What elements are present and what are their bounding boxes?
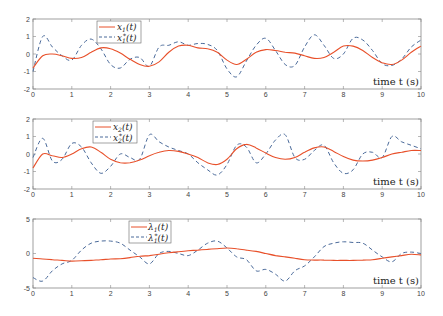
x-tick-label: 4 [186,91,190,98]
y-tick-label: -2 [24,86,30,93]
legend: λ1(t) λ1*(t) [129,221,171,244]
x-tick-label: 10 [417,191,425,198]
y-tick-label: 1 [26,133,30,140]
y-tick-label: 1 [26,33,30,40]
y-tick-label: 5 [26,216,30,223]
axes-box [33,219,421,288]
x-tick-label: 0 [31,91,35,98]
x-tick-label: 6 [264,191,268,198]
x-tick-label: 10 [417,290,425,297]
legend-label-actual: x2(t) [113,122,133,133]
subplot-x2: -2-1012 012345678910 x2(t) x2*(t) time t… [24,116,425,199]
x-tick-label: 9 [380,91,384,98]
x-tick-label: 7 [303,91,307,98]
x-tick-label: 1 [70,191,74,198]
x-tick-label: 10 [417,91,425,98]
x-tick-label: 5 [225,290,229,297]
y-tick-label: -5 [24,285,30,292]
x-tick-label: 1 [70,290,74,297]
x-tick-label: 4 [186,191,190,198]
x-tick-label: 9 [380,290,384,297]
x-tick-label: 3 [147,290,151,297]
x-tick-label: 8 [341,91,345,98]
x-tick-label: 8 [341,191,345,198]
x-axis-label: time t (s) [373,176,419,187]
axes-box [33,119,421,189]
x-tick-label: 5 [225,91,229,98]
legend-label-reference: x2*(t) [113,132,133,144]
y-tick-label: -1 [24,168,30,175]
legend: x1(t) x1*(t) [97,21,141,44]
x-tick-label: 0 [31,290,35,297]
x-tick-label: 2 [109,290,113,297]
y-tick-label: -1 [24,68,30,75]
x-tick-label: 6 [264,290,268,297]
x-tick-label: 0 [31,191,35,198]
x-tick-label: 2 [109,191,113,198]
y-tick-label: 2 [26,16,30,23]
legend-label-actual: λ1(t) [147,222,169,233]
y-tick-label: 2 [26,116,30,123]
subplot-x1: -2-1012 012345678910 x1(t) x1*(t) time t… [24,16,425,99]
axes-box [33,19,421,89]
legend-label-reference: x1*(t) [117,32,137,44]
legend-label-actual: x1(t) [117,22,137,33]
x-tick-label: 7 [303,191,307,198]
x-tick-label: 8 [341,290,345,297]
x-axis-label: time t (s) [373,76,419,87]
figure: -2-1012 012345678910 x1(t) x1*(t) time t… [0,0,443,316]
y-tick-label: -2 [24,186,30,193]
subplot-lambda1: -505 012345678910 λ1(t) λ1*(t) time t (s… [24,216,425,298]
x-tick-label: 9 [380,191,384,198]
x-tick-label: 1 [70,91,74,98]
x-tick-label: 3 [147,91,151,98]
y-tick-label: 0 [26,250,30,257]
y-tick-label: 0 [26,51,30,58]
x-tick-label: 7 [303,290,307,297]
legend-label-reference: λ1*(t) [147,232,169,244]
x-tick-label: 6 [264,91,268,98]
x-tick-label: 3 [147,191,151,198]
x-tick-label: 2 [109,91,113,98]
legend: x2(t) x2*(t) [93,121,137,144]
x-axis-label: time t (s) [373,275,419,286]
y-tick-label: 0 [26,151,30,158]
x-tick-label: 4 [186,290,190,297]
x-tick-label: 5 [225,191,229,198]
